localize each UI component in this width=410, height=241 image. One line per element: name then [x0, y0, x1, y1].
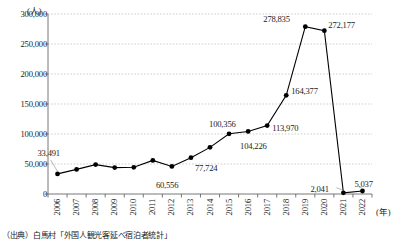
series-line	[58, 27, 363, 193]
data-point-marker	[150, 158, 155, 163]
label-leader-line	[51, 160, 58, 172]
data-point-marker	[112, 165, 117, 170]
data-point-marker	[246, 129, 251, 134]
data-point-marker	[55, 172, 60, 177]
data-point-marker	[360, 189, 365, 194]
source-note: （出典）白馬村「外国人観光客延べ宿泊者統計」	[2, 229, 171, 240]
data-point-marker	[303, 24, 308, 29]
data-point-marker	[322, 28, 327, 33]
data-point-marker	[93, 162, 98, 167]
data-point-marker	[208, 145, 213, 150]
data-point-marker	[265, 123, 270, 128]
data-point-marker	[169, 164, 174, 169]
data-point-marker	[189, 155, 194, 160]
data-point-marker	[227, 131, 232, 136]
chart-container: (人) (年) 050,000100,000150,000200,000250,…	[0, 0, 410, 241]
data-point-marker	[131, 165, 136, 170]
data-point-marker	[284, 93, 289, 98]
data-point-marker	[341, 190, 346, 195]
label-leader-line	[358, 186, 362, 189]
plot-area	[0, 0, 410, 241]
data-point-marker	[74, 167, 79, 172]
